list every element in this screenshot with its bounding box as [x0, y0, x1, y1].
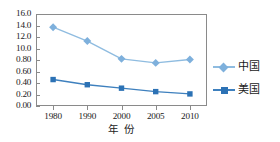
data-point-marker [49, 23, 57, 31]
line-chart: 16.014.012.010.00.800.600.400.200.00 198… [0, 0, 280, 142]
x-tick-mark [87, 106, 88, 110]
x-tick-label: 1990 [79, 112, 97, 121]
legend-item-usa[interactable]: 美国 [213, 83, 260, 97]
x-tick-label: 1980 [44, 112, 62, 121]
y-tick-label: 14.0 [16, 21, 31, 30]
square-marker-icon [221, 87, 228, 94]
data-point-marker [152, 59, 160, 67]
data-point-marker [153, 89, 158, 94]
data-point-marker [187, 91, 192, 96]
data-series-layer [36, 14, 207, 106]
data-point-marker [83, 37, 91, 45]
legend-swatch [213, 84, 235, 96]
y-tick-mark [36, 106, 40, 107]
data-point-marker [186, 55, 194, 63]
legend-label: 中国 [238, 61, 260, 73]
chart-legend: 中国美国 [213, 58, 279, 104]
y-tick-label: 0.60 [16, 67, 31, 76]
y-tick-label: 10.0 [16, 44, 31, 53]
data-point-marker [119, 85, 124, 90]
x-tick-mark [53, 106, 54, 110]
x-tick-label: 2005 [147, 112, 165, 121]
y-tick-label: 0.20 [16, 90, 31, 99]
diamond-marker-icon [219, 62, 229, 72]
x-axis-title: 年 份 [36, 124, 207, 135]
y-tick-label: 0.00 [16, 101, 31, 110]
x-tick-mark [190, 106, 191, 110]
data-point-marker [85, 82, 90, 87]
data-point-marker [118, 55, 126, 63]
legend-label: 美国 [238, 84, 260, 96]
legend-swatch [213, 61, 235, 73]
x-tick-mark [122, 106, 123, 110]
x-tick-mark [156, 106, 157, 110]
y-tick-label: 12.0 [16, 32, 31, 41]
x-tick-label: 2010 [181, 112, 199, 121]
legend-item-china[interactable]: 中国 [213, 60, 260, 74]
data-point-marker [50, 77, 55, 82]
y-axis-tick-labels: 16.014.012.010.00.800.600.400.200.00 [0, 8, 34, 112]
y-tick-label: 0.80 [16, 55, 31, 64]
y-tick-label: 0.40 [16, 78, 31, 87]
y-tick-label: 16.0 [16, 9, 31, 18]
x-tick-label: 2000 [113, 112, 131, 121]
